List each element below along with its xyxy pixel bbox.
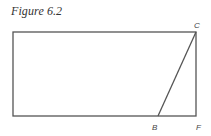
rectangle xyxy=(13,32,196,116)
point-label-c: C xyxy=(194,22,200,30)
point-label-b: B xyxy=(152,124,157,132)
point-label-f: F xyxy=(196,124,201,132)
geometry-diagram xyxy=(0,0,211,136)
segment-bc xyxy=(158,32,196,116)
